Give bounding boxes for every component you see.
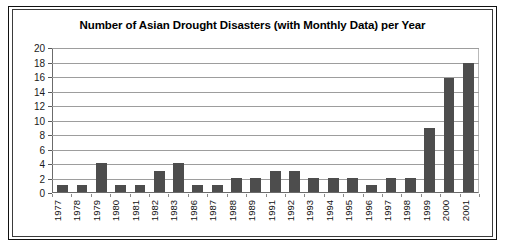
bar-slot [188, 49, 207, 192]
bar-slot [111, 49, 130, 192]
y-axis-tick [48, 179, 52, 180]
x-axis-tick [382, 194, 383, 197]
x-axis-tick-label: 1989 [246, 200, 265, 221]
y-axis-tick [48, 106, 52, 107]
bar-slot [72, 49, 91, 192]
y-axis-tick [48, 48, 52, 49]
x-axis-tick [440, 194, 441, 197]
x-axis-tick [324, 194, 325, 197]
x-axis-tick-label: 2001 [460, 200, 479, 221]
x-axis-tick [246, 194, 247, 197]
y-axis-tick-label: 20 [34, 43, 45, 54]
bar-slot [459, 49, 478, 192]
x-axis-tick [130, 194, 131, 197]
y-axis-tick-label: 18 [34, 57, 45, 68]
x-axis-tick [188, 194, 189, 197]
x-axis-tick [285, 194, 286, 197]
x-axis-tick [460, 194, 461, 197]
x-axis-tick-label: 1979 [91, 200, 110, 221]
bar [231, 178, 242, 192]
bar-slot [401, 49, 420, 192]
bar [308, 178, 319, 192]
y-axis-tick-label: 4 [39, 159, 45, 170]
x-axis-tick-label: 1992 [285, 200, 304, 221]
x-axis-tick-label: 2000 [440, 200, 459, 221]
bar-slot [285, 49, 304, 192]
y-axis-tick [48, 63, 52, 64]
bar-slot [420, 49, 439, 192]
bar [154, 171, 165, 192]
bar [405, 178, 416, 192]
x-axis-tick-label: 1991 [266, 200, 285, 221]
bar-slot [150, 49, 169, 192]
bar [328, 178, 339, 192]
bar-slot [439, 49, 458, 192]
x-axis-tick-label: 1982 [149, 200, 168, 221]
bar [77, 185, 88, 192]
bar-series [53, 49, 478, 192]
bar-slot [381, 49, 400, 192]
y-axis-tick-label: 14 [34, 86, 45, 97]
bar [424, 128, 435, 192]
x-axis-tick [343, 194, 344, 197]
x-axis-tick [91, 194, 92, 197]
plot-wrap: 02468101214161820 [52, 48, 479, 193]
bar-slot [92, 49, 111, 192]
x-axis-tick [227, 194, 228, 197]
bar [57, 185, 68, 192]
x-axis-tick-label: 1980 [110, 200, 129, 221]
bar [135, 185, 146, 192]
x-axis-tick-label: 1995 [343, 200, 362, 221]
x-axis-tick-label: 1997 [382, 200, 401, 221]
bar [463, 63, 474, 192]
y-axis-tick [48, 92, 52, 93]
x-axis-tick-label: 1999 [421, 200, 440, 221]
x-axis-tick [52, 194, 53, 197]
bar [96, 163, 107, 192]
x-axis-tick [71, 194, 72, 197]
y-axis-tick-label: 2 [39, 173, 45, 184]
x-axis-tick [266, 194, 267, 197]
bar [444, 78, 455, 192]
bar [115, 185, 126, 192]
bar-slot [362, 49, 381, 192]
x-axis-tick [363, 194, 364, 197]
y-axis-tick [48, 77, 52, 78]
x-axis-tick [421, 194, 422, 197]
bar-slot [169, 49, 188, 192]
y-axis-tick-label: 10 [34, 115, 45, 126]
x-axis-labels: 1977197819791980198119821983198619871988… [52, 194, 479, 240]
x-axis-tick-label: 1986 [188, 200, 207, 221]
y-axis-tick [48, 121, 52, 122]
bar-slot [246, 49, 265, 192]
chart-title: Number of Asian Drought Disasters (with … [20, 19, 485, 31]
bar [192, 185, 203, 192]
x-axis-tick-label: 1998 [401, 200, 420, 221]
bar-slot [323, 49, 342, 192]
x-axis-tick [401, 194, 402, 197]
y-axis-tick [48, 164, 52, 165]
bar-slot [343, 49, 362, 192]
x-axis-tick-label: 1994 [324, 200, 343, 221]
bar [289, 171, 300, 192]
x-axis-tick [110, 194, 111, 197]
bar-slot [208, 49, 227, 192]
bar-slot [304, 49, 323, 192]
chart-figure: Number of Asian Drought Disasters (with … [0, 0, 506, 248]
y-axis-tick-label: 12 [34, 101, 45, 112]
x-axis-tick [149, 194, 150, 197]
y-axis-tick-label: 16 [34, 72, 45, 83]
x-axis-tick-label: 1977 [52, 200, 71, 221]
bar [212, 185, 223, 192]
y-axis-tick-label: 8 [39, 130, 45, 141]
bar [173, 163, 184, 192]
x-axis-tick [207, 194, 208, 197]
bar-slot [53, 49, 72, 192]
bar [386, 178, 397, 192]
x-axis-tick-label: 1983 [168, 200, 187, 221]
x-axis-tick-label: 1978 [71, 200, 90, 221]
bar [347, 178, 358, 192]
x-axis-tick-label: 1988 [227, 200, 246, 221]
y-axis-tick [48, 150, 52, 151]
y-axis-tick [48, 135, 52, 136]
